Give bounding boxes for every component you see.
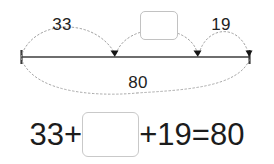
arrowhead-first-jump: [111, 51, 119, 57]
arc-label-left-addend: 33: [44, 16, 80, 33]
diagram-missing-addend-box[interactable]: [140, 11, 178, 40]
equation-equals-sign: =: [192, 119, 210, 150]
arc-label-total: 80: [119, 74, 157, 91]
arrowhead-third-jump: [246, 51, 253, 57]
equation-second-addend: 19: [157, 119, 191, 150]
arc-label-right-addend: 19: [203, 16, 239, 33]
equation-plus-sign-2: +: [139, 119, 157, 150]
arrowhead-second-jump: [194, 51, 202, 57]
arc-jump-right: [199, 32, 249, 55]
equation-sum: 80: [210, 119, 244, 150]
equation-plus-sign-1: +: [64, 119, 82, 150]
equation-first-addend: 33: [30, 119, 64, 150]
equation-missing-addend-box[interactable]: [82, 112, 139, 157]
worksheet-canvas: 33 19 80 33 + + 19 = 80: [0, 0, 274, 164]
equation-row: 33 + + 19 = 80: [0, 104, 274, 164]
number-line-diagram: 33 19 80: [0, 0, 274, 100]
